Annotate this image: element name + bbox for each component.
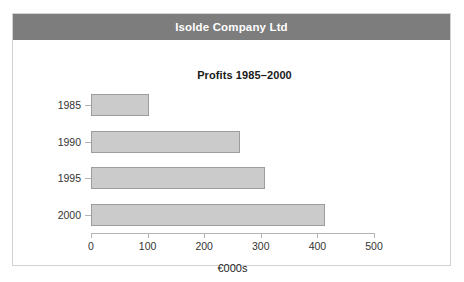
- company-header-bar: Isolde Company Ltd: [13, 14, 450, 40]
- y-tick: [85, 215, 91, 216]
- bar: [91, 167, 265, 189]
- x-tick: [374, 233, 375, 238]
- y-tick: [85, 142, 91, 143]
- chart-area: Profits 1985–2000 0100200300400500 19851…: [13, 40, 450, 267]
- y-tick: [85, 178, 91, 179]
- x-axis-label: €000s: [91, 262, 374, 274]
- chart-title-text: Profits 1985–2000: [197, 69, 292, 81]
- bar: [91, 131, 240, 153]
- x-tick-label: 300: [252, 240, 270, 252]
- x-tick: [317, 233, 318, 238]
- bar: [91, 94, 149, 116]
- y-tick-label: 1990: [58, 136, 81, 148]
- plot-region: 0100200300400500 1985199019952000 €000s: [91, 87, 373, 233]
- y-tick-label: 1985: [58, 99, 81, 111]
- company-title: Isolde Company Ltd: [175, 21, 288, 33]
- x-tick: [261, 233, 262, 238]
- x-tick: [148, 233, 149, 238]
- chart-title: Profits 1985–2000: [13, 69, 450, 81]
- x-axis-line: [91, 233, 374, 234]
- y-tick-label: 2000: [58, 209, 81, 221]
- x-tick: [91, 233, 92, 238]
- chart-card: Isolde Company Ltd Profits 1985–2000 010…: [12, 13, 451, 266]
- y-tick: [85, 105, 91, 106]
- x-tick-label: 0: [88, 240, 94, 252]
- x-tick: [204, 233, 205, 238]
- x-tick-label: 500: [365, 240, 383, 252]
- x-tick-label: 100: [139, 240, 157, 252]
- x-tick-label: 400: [309, 240, 327, 252]
- bar: [91, 204, 325, 226]
- x-tick-label: 200: [195, 240, 213, 252]
- y-tick-label: 1995: [58, 172, 81, 184]
